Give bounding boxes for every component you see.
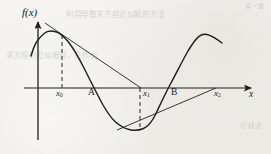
tangent-lines-group: [45, 23, 216, 130]
x-tick-label-x1: x1: [143, 88, 150, 98]
point-label-b: B: [171, 87, 177, 97]
x-tick-label-x0: x0: [56, 88, 63, 98]
x-tick-label-x2: x2: [214, 88, 221, 98]
x-tick-label-x2-subscript: 2: [218, 92, 221, 98]
tangent-line-at-x1: [117, 88, 216, 130]
function-curve: [31, 31, 222, 130]
figure-container: 第一章 利用导数求方程近似解的方法 求方程的近似根时，先作出 切线法 f(x) …: [0, 0, 271, 154]
x-axis-label: x: [249, 89, 253, 99]
x-tick-label-x1-subscript: 1: [147, 92, 150, 98]
plot-canvas: [0, 0, 271, 154]
y-axis-label: f(x): [22, 6, 37, 18]
x-tick-label-x0-subscript: 0: [60, 92, 63, 98]
point-label-a: A: [88, 87, 95, 97]
